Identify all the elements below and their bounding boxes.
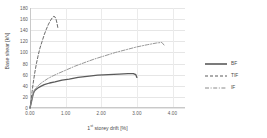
x-axis-tick: 0.00 <box>25 111 34 116</box>
x-axis-title: 1st storey drift [%] <box>30 123 185 131</box>
series-line-tif <box>30 16 58 108</box>
y-axis-tick: 0 <box>25 106 28 111</box>
y-axis-tick: 100 <box>20 50 28 55</box>
x-axis-tick: 1.00 <box>61 111 70 116</box>
series-line-bf <box>30 74 137 108</box>
series-lines <box>30 8 185 108</box>
x-axis-tick: 4.00 <box>168 111 177 116</box>
legend-item-bf[interactable]: BF <box>205 58 265 70</box>
y-axis-tick: 180 <box>20 6 28 11</box>
x-axis-tick: 3.00 <box>132 111 141 116</box>
legend-key-if <box>205 84 227 92</box>
legend: BFTIFIF <box>205 58 265 94</box>
legend-label: TIF <box>231 73 238 79</box>
legend-item-tif[interactable]: TIF <box>205 70 265 82</box>
y-axis-tick: 60 <box>23 72 28 77</box>
y-axis-tick: 20 <box>23 94 28 99</box>
x-axis-tick-labels: 0.001.002.003.004.00 <box>30 111 185 119</box>
y-axis-tick: 120 <box>20 39 28 44</box>
x-axis-title-rest: storey drift [%] <box>93 125 128 131</box>
plot-area <box>30 8 185 108</box>
legend-key-bf <box>205 60 227 68</box>
legend-item-if[interactable]: IF <box>205 82 265 94</box>
legend-label: IF <box>231 85 235 91</box>
y-axis-title: Base shear [kN] <box>4 20 10 82</box>
y-axis-tick: 80 <box>23 61 28 66</box>
y-axis-tick: 160 <box>20 17 28 22</box>
y-axis-tick: 140 <box>20 28 28 33</box>
base-shear-drift-chart: 020406080100120140160180 Base shear [kN]… <box>0 0 267 138</box>
x-axis-tick: 2.00 <box>97 111 106 116</box>
y-axis-tick: 40 <box>23 83 28 88</box>
legend-label: BF <box>231 61 237 67</box>
legend-key-tif <box>205 72 227 80</box>
gridline-horizontal <box>30 108 185 109</box>
